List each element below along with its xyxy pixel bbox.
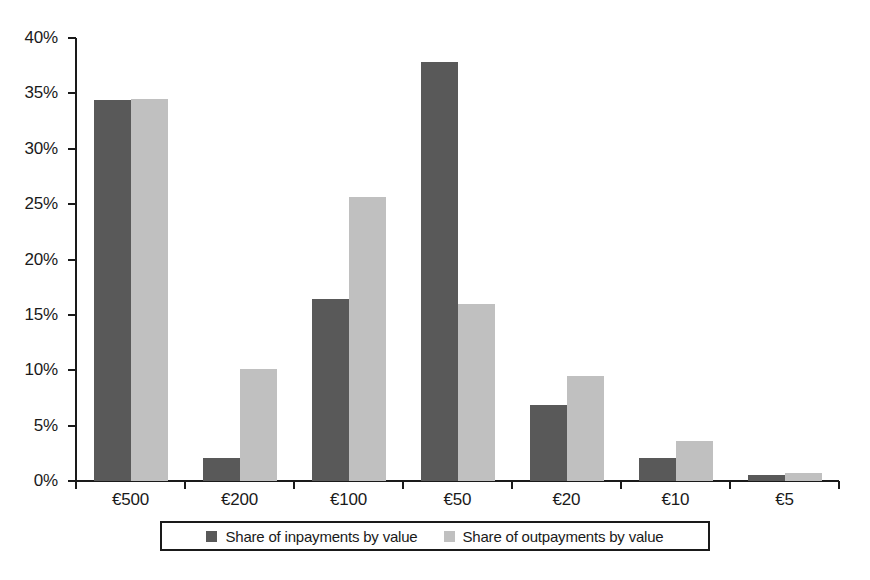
bar-eur20-series-0 — [530, 405, 567, 481]
x-axis-label: €10 — [621, 490, 730, 510]
bar-chart: 0%5%10%15%20%25%30%35%40% €500€200€100€5… — [0, 0, 870, 580]
y-axis-label: 40% — [0, 29, 58, 46]
legend-label-inpayments: Share of inpayments by value — [225, 529, 417, 544]
x-axis-tick — [293, 481, 295, 489]
legend-swatch-icon-inpayments — [206, 531, 217, 542]
y-axis-tick — [68, 37, 76, 39]
bar-eur10-series-1 — [676, 441, 713, 481]
bar-eur20-series-1 — [567, 376, 604, 481]
bar-eur100-series-0 — [312, 299, 349, 481]
bar-eur500-series-1 — [131, 99, 168, 481]
y-axis-tick — [68, 259, 76, 261]
x-axis-tick — [620, 481, 622, 489]
x-axis-tick — [729, 481, 731, 489]
x-axis-tick — [184, 481, 186, 489]
y-axis-label: 25% — [0, 195, 58, 212]
chart-legend: Share of inpayments by value Share of ou… — [160, 521, 710, 551]
legend-label-outpayments: Share of outpayments by value — [463, 529, 664, 544]
y-axis-label: 0% — [0, 472, 58, 489]
bar-eur5-series-0 — [748, 475, 785, 481]
y-axis-tick — [68, 314, 76, 316]
x-axis-label: €100 — [294, 490, 403, 510]
x-axis-tick — [75, 481, 77, 489]
y-axis-tick — [68, 92, 76, 94]
y-axis-label: 20% — [0, 251, 58, 268]
bar-eur500-series-0 — [94, 100, 131, 481]
y-axis-tick — [68, 148, 76, 150]
bar-eur50-series-1 — [458, 304, 495, 481]
x-axis-label: €50 — [403, 490, 512, 510]
y-axis-tick — [68, 369, 76, 371]
x-axis-label: €200 — [185, 490, 294, 510]
y-axis-label: 10% — [0, 361, 58, 378]
bar-eur200-series-1 — [240, 369, 277, 481]
legend-entry-outpayments: Share of outpayments by value — [444, 529, 664, 544]
y-axis-label: 35% — [0, 84, 58, 101]
x-axis-label: €20 — [512, 490, 621, 510]
bar-eur50-series-0 — [421, 62, 458, 481]
legend-entry-inpayments: Share of inpayments by value — [206, 529, 417, 544]
bar-eur10-series-0 — [639, 458, 676, 481]
x-axis-tick — [402, 481, 404, 489]
y-axis-tick — [68, 203, 76, 205]
legend-swatch-icon-outpayments — [444, 531, 455, 542]
y-axis-label: 5% — [0, 417, 58, 434]
bar-eur200-series-0 — [203, 458, 240, 481]
bar-eur5-series-1 — [785, 473, 822, 481]
y-axis-label: 15% — [0, 306, 58, 323]
x-axis-label: €500 — [76, 490, 185, 510]
x-axis-label: €5 — [730, 490, 839, 510]
bar-eur100-series-1 — [349, 197, 386, 481]
x-axis-tick — [511, 481, 513, 489]
y-axis-label: 30% — [0, 140, 58, 157]
y-axis-tick — [68, 425, 76, 427]
x-axis-tick — [838, 481, 840, 489]
